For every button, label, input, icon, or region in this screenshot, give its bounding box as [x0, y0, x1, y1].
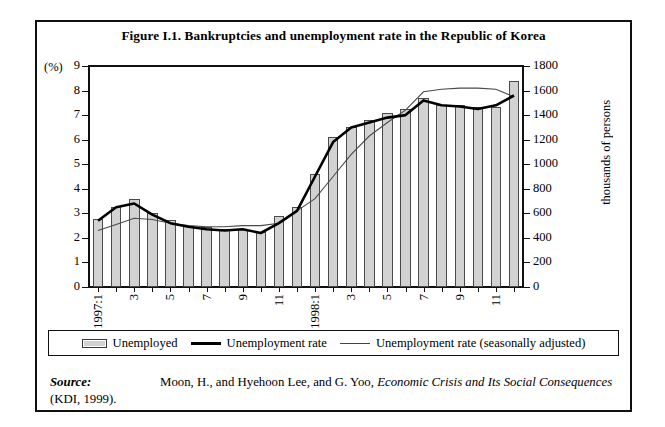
y-tick-label-left: 6	[40, 133, 80, 146]
bar	[93, 219, 104, 287]
source-text: Moon, H., and Hyehoon Lee, and G. Yoo, E…	[50, 375, 612, 406]
y-tick-right	[523, 164, 530, 165]
x-tick-label: 11	[272, 294, 287, 306]
bar	[238, 229, 249, 287]
bar	[328, 137, 339, 287]
y-tick-label-right: 200	[533, 255, 552, 268]
chart-legend: Unemployed Unemployment rate Unemploymen…	[48, 330, 619, 356]
x-tick	[496, 287, 497, 292]
y-tick-label-left: 8	[40, 84, 80, 97]
x-tick	[225, 287, 226, 292]
y-tick-right	[523, 66, 530, 67]
y-tick-label-left: 7	[40, 108, 80, 121]
x-tick-label: 9	[453, 294, 468, 300]
x-tick	[460, 287, 461, 292]
bar	[455, 105, 466, 287]
y-tick-left	[82, 164, 89, 165]
x-tick-label: 1998:1	[308, 294, 323, 329]
y-tick-left	[82, 140, 89, 141]
y-tick-label-right: 400	[533, 231, 552, 244]
source-text-part1: Moon, H., and Hyehoon Lee, and G. Yoo,	[160, 375, 377, 389]
x-tick	[514, 287, 515, 292]
y-tick-label-left: 0	[40, 280, 80, 293]
bar	[165, 220, 176, 287]
y-tick-label-left: 4	[40, 182, 80, 195]
bar	[509, 81, 520, 287]
y-axis-left	[88, 65, 90, 288]
y-tick-label-left: 3	[40, 206, 80, 219]
y-tick-left	[82, 115, 89, 116]
y-tick-label-right: 0	[533, 280, 539, 293]
thick-line-swatch-icon	[191, 342, 221, 345]
x-tick-label: 11	[489, 294, 504, 306]
legend-item-unemployment-rate-adjusted: Unemployment rate (seasonally adjusted)	[340, 336, 585, 351]
source-text-title: Economic Crisis and Its Social Consequen…	[377, 375, 612, 389]
y-tick-left	[82, 213, 89, 214]
bar	[256, 232, 267, 287]
bar	[219, 229, 230, 287]
bar	[418, 98, 429, 287]
y-tick-label-right: 800	[533, 182, 552, 195]
y-tick-right	[523, 262, 530, 263]
y-tick-label-right: 1200	[533, 133, 558, 146]
bar	[473, 107, 484, 288]
x-tick	[424, 287, 425, 292]
y-tick-right	[523, 115, 530, 116]
bar	[147, 213, 158, 287]
bar	[292, 207, 303, 287]
x-tick	[406, 287, 407, 292]
y-axis-right	[522, 65, 524, 288]
y-tick-label-left: 9	[40, 59, 80, 72]
y-tick-right	[523, 238, 530, 239]
x-tick	[243, 287, 244, 292]
thin-line-swatch-icon	[340, 343, 370, 344]
y-tick-right	[523, 140, 530, 141]
bar-swatch-icon	[82, 339, 107, 348]
x-tick-label: 7	[200, 294, 215, 300]
x-tick-label: 3	[344, 294, 359, 300]
x-tick	[116, 287, 117, 292]
bar	[310, 174, 321, 287]
x-tick	[315, 287, 316, 292]
bar	[400, 109, 411, 287]
source-text-part2: (KDI, 1999).	[50, 392, 116, 406]
x-tick-label: 3	[127, 294, 142, 300]
x-tick	[279, 287, 280, 292]
y-tick-left	[82, 91, 89, 92]
source-note: Source: Moon, H., and Hyehoon Lee, and G…	[50, 374, 615, 409]
y-tick-left	[82, 262, 89, 263]
x-tick	[261, 287, 262, 292]
x-tick-label: 5	[380, 294, 395, 300]
y-tick-label-right: 600	[533, 206, 552, 219]
x-tick	[351, 287, 352, 292]
y-tick-label-right: 1600	[533, 84, 558, 97]
x-tick-label: 5	[163, 294, 178, 300]
legend-item-unemployment-rate: Unemployment rate	[191, 336, 327, 351]
y-tick-right	[523, 189, 530, 190]
y-tick-left	[82, 238, 89, 239]
legend-label-unemployed: Unemployed	[113, 336, 178, 351]
x-tick	[134, 287, 135, 292]
bar	[183, 226, 194, 287]
right-axis-title: thousands of persons	[599, 100, 614, 205]
bar	[129, 199, 140, 287]
y-tick-left	[82, 66, 89, 67]
y-tick-right	[523, 213, 530, 214]
x-tick	[333, 287, 334, 292]
bar	[346, 127, 357, 287]
y-tick-label-left: 1	[40, 255, 80, 268]
y-tick-left	[82, 287, 89, 288]
y-tick-left	[82, 189, 89, 190]
x-tick	[442, 287, 443, 292]
x-tick-label: 1997:1	[91, 294, 106, 329]
figure-container: Figure I.1. Bankruptcies and unemploymen…	[0, 0, 665, 427]
bar	[436, 105, 447, 287]
legend-label-unemployment-rate-adjusted: Unemployment rate (seasonally adjusted)	[376, 336, 585, 351]
y-tick-label-right: 1800	[533, 59, 558, 72]
plot-top-border	[88, 65, 524, 67]
x-tick	[98, 287, 99, 292]
bar	[274, 216, 285, 287]
x-tick-label: 9	[236, 294, 251, 300]
y-tick-label-left: 2	[40, 231, 80, 244]
source-label: Source:	[50, 374, 102, 391]
